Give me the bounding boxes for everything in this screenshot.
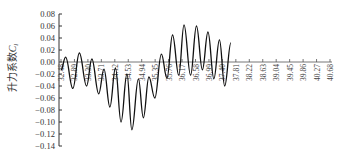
y-tick-label: −0.08 (35, 105, 55, 115)
x-tick-label: 36.58 (192, 64, 201, 81)
x-tick-label: 34.12 (111, 64, 120, 81)
y-tick-label: −0.14 (35, 141, 55, 151)
x-tick-label: 37.81 (232, 64, 241, 81)
x-tick-label: 38.22 (245, 64, 254, 81)
y-tick-label: −0.12 (35, 129, 55, 139)
y-tick-label: 0.04 (40, 33, 56, 43)
lift-coefficient-chart: 0.080.060.040.020.00−0.02−0.04−0.06−0.08… (0, 0, 351, 162)
x-tick-label: 39.86 (299, 64, 308, 81)
y-tick-label: −0.04 (35, 81, 55, 91)
x-tick-label: 39.04 (272, 64, 281, 81)
y-tick-label: 0.00 (40, 57, 55, 67)
y-tick-label: 0.08 (40, 9, 55, 19)
x-tick-label: 34.94 (138, 64, 147, 81)
x-tick-label: 38.63 (259, 64, 268, 81)
x-tick-label: 40.68 (326, 64, 335, 81)
svg-text:升力系数Cl: 升力系数Cl (6, 44, 20, 93)
y-tick-label: 0.06 (40, 21, 55, 31)
x-tick-label: 40.27 (313, 64, 322, 81)
y-axis-label: 升力系数Cl (6, 44, 20, 93)
y-tick-label: −0.06 (35, 93, 55, 103)
y-tick-label: 0.02 (40, 45, 55, 55)
x-tick-label: 32.48 (57, 64, 66, 81)
x-tick-label: 39.45 (286, 64, 295, 81)
y-tick-label: −0.02 (35, 69, 55, 79)
y-tick-label: −0.10 (35, 117, 55, 127)
